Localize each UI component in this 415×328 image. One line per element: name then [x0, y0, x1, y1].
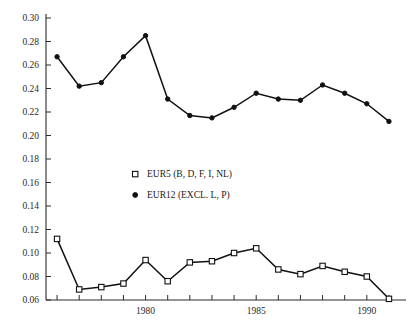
x-tick-label: 1980	[136, 306, 155, 316]
data-point-marker	[76, 287, 81, 292]
series-eur12	[55, 33, 391, 123]
data-point-marker	[276, 267, 281, 272]
legend-marker-filled-circle	[133, 193, 138, 198]
data-point-marker	[165, 279, 170, 284]
x-axis: 198019851990	[46, 295, 406, 316]
data-point-marker	[365, 102, 369, 106]
data-point-marker	[99, 80, 103, 84]
legend-label: EUR12 (EXCL. L, P)	[147, 190, 230, 201]
data-point-marker	[121, 55, 125, 59]
y-tick-label: 0.30	[22, 13, 39, 23]
y-tick-label: 0.08	[22, 272, 39, 282]
data-point-marker	[253, 246, 258, 251]
data-point-marker	[276, 97, 280, 101]
data-series-group	[54, 33, 391, 301]
series-eur5	[54, 236, 391, 301]
data-point-marker	[55, 55, 59, 59]
data-point-marker	[387, 119, 391, 123]
data-point-marker	[188, 113, 192, 117]
y-tick-label: 0.16	[22, 178, 39, 188]
y-tick-label: 0.24	[22, 84, 39, 94]
x-tick-label: 1985	[247, 306, 266, 316]
data-point-marker	[77, 84, 81, 88]
y-tick-label: 0.22	[22, 107, 39, 117]
data-point-marker	[99, 284, 104, 289]
y-tick-label: 0.10	[22, 248, 39, 258]
y-tick-label: 0.26	[22, 60, 39, 70]
data-point-marker	[187, 260, 192, 265]
y-tick-label: 0.18	[22, 154, 39, 164]
data-point-marker	[143, 257, 148, 262]
data-point-marker	[320, 263, 325, 268]
line-chart: 0.300.280.260.240.220.200.180.160.140.12…	[0, 0, 415, 328]
data-point-marker	[342, 269, 347, 274]
y-tick-label: 0.20	[22, 131, 39, 141]
y-tick-label: 0.06	[22, 295, 39, 305]
data-point-marker	[121, 281, 126, 286]
data-point-marker	[364, 274, 369, 279]
data-point-marker	[298, 271, 303, 276]
data-point-marker	[254, 91, 258, 95]
data-point-marker	[386, 296, 391, 301]
chart-container: 0.300.280.260.240.220.200.180.160.140.12…	[0, 0, 415, 328]
series-line	[57, 36, 389, 122]
series-line	[57, 239, 389, 299]
y-tick-label: 0.14	[22, 201, 39, 211]
legend-label: EUR5 (B, D, F, I, NL)	[147, 169, 232, 180]
data-point-marker	[210, 116, 214, 120]
data-point-marker	[209, 259, 214, 264]
data-point-marker	[143, 33, 147, 37]
data-point-marker	[298, 98, 302, 102]
y-tick-label: 0.28	[22, 37, 39, 47]
y-axis: 0.300.280.260.240.220.200.180.160.140.12…	[22, 13, 51, 305]
x-tick-label: 1990	[357, 306, 376, 316]
legend-marker-open-square	[133, 171, 138, 176]
data-point-marker	[232, 105, 236, 109]
y-tick-label: 0.12	[22, 225, 39, 235]
data-point-marker	[165, 97, 169, 101]
data-point-marker	[320, 83, 324, 87]
chart-legend: EUR5 (B, D, F, I, NL)EUR12 (EXCL. L, P)	[133, 169, 233, 201]
data-point-marker	[54, 236, 59, 241]
data-point-marker	[342, 91, 346, 95]
data-point-marker	[231, 250, 236, 255]
